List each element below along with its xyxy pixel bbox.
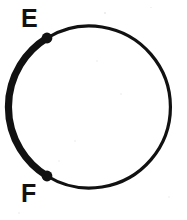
minor-arc-bold-EF (8, 38, 47, 176)
point-label-E: E (21, 6, 38, 31)
point-marker-E (42, 33, 53, 44)
figure-canvas: E F (0, 0, 187, 220)
point-marker-F (42, 171, 53, 182)
point-label-F: F (21, 181, 36, 206)
major-arc-thin (47, 26, 170, 188)
